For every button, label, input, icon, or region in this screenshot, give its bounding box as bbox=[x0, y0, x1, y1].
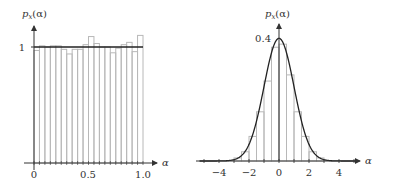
histogram-bar bbox=[121, 45, 126, 163]
histogram-bar bbox=[56, 46, 61, 163]
histogram-bar bbox=[138, 35, 143, 163]
right-xtick-0: 0 bbox=[276, 167, 282, 178]
left-ytick-label: 1 bbox=[19, 42, 25, 53]
right-xtick-4: 4 bbox=[336, 167, 342, 178]
histogram-bar bbox=[67, 54, 72, 163]
histogram-bar bbox=[264, 81, 272, 161]
histogram-bar bbox=[287, 75, 295, 161]
histogram-bar bbox=[309, 152, 317, 161]
right-xtick-2: 2 bbox=[306, 167, 312, 178]
right-xlabel: α bbox=[365, 155, 372, 166]
left-xtick-0.5: 0.5 bbox=[80, 169, 96, 180]
histogram-bar bbox=[50, 46, 55, 163]
histogram-bar bbox=[39, 46, 44, 163]
histogram-bar bbox=[116, 48, 121, 163]
gaussian-histogram-chart: 0.4 px(α) −4 −2 0 2 4 α bbox=[196, 8, 372, 178]
histogram-bar bbox=[83, 45, 88, 163]
left-xtick-0: 0 bbox=[31, 169, 37, 180]
histogram-bar bbox=[110, 53, 115, 163]
figure: 1 px(α) 0 0.5 1.0 α 0.4 px(α) −4 −2 0 2 … bbox=[0, 0, 398, 191]
histogram-bar bbox=[72, 49, 77, 163]
histogram-bar bbox=[61, 49, 66, 163]
left-xlabel: α bbox=[162, 157, 169, 168]
histogram-bar bbox=[242, 152, 250, 161]
histogram-bar bbox=[78, 49, 83, 163]
uniform-histogram-bars bbox=[34, 35, 143, 163]
left-xtick-1.0: 1.0 bbox=[135, 169, 151, 180]
left-ylabel: px(α) bbox=[22, 8, 47, 21]
right-ylabel: px(α) bbox=[265, 8, 290, 21]
histogram-bar bbox=[34, 50, 39, 163]
uniform-histogram-chart: 1 px(α) 0 0.5 1.0 α bbox=[19, 8, 169, 180]
right-xtick-neg4: −4 bbox=[212, 167, 227, 178]
histogram-bar bbox=[89, 37, 94, 163]
histogram-bar bbox=[45, 47, 50, 163]
histogram-bar bbox=[272, 47, 280, 161]
right-ytick-label: 0.4 bbox=[255, 33, 271, 44]
histogram-bar bbox=[105, 47, 110, 163]
histogram-bar bbox=[127, 42, 132, 163]
histogram-bar bbox=[132, 52, 137, 163]
histogram-bar bbox=[99, 47, 104, 163]
histogram-bar bbox=[279, 44, 287, 161]
histogram-bar bbox=[94, 44, 99, 163]
right-xtick-neg2: −2 bbox=[242, 167, 257, 178]
